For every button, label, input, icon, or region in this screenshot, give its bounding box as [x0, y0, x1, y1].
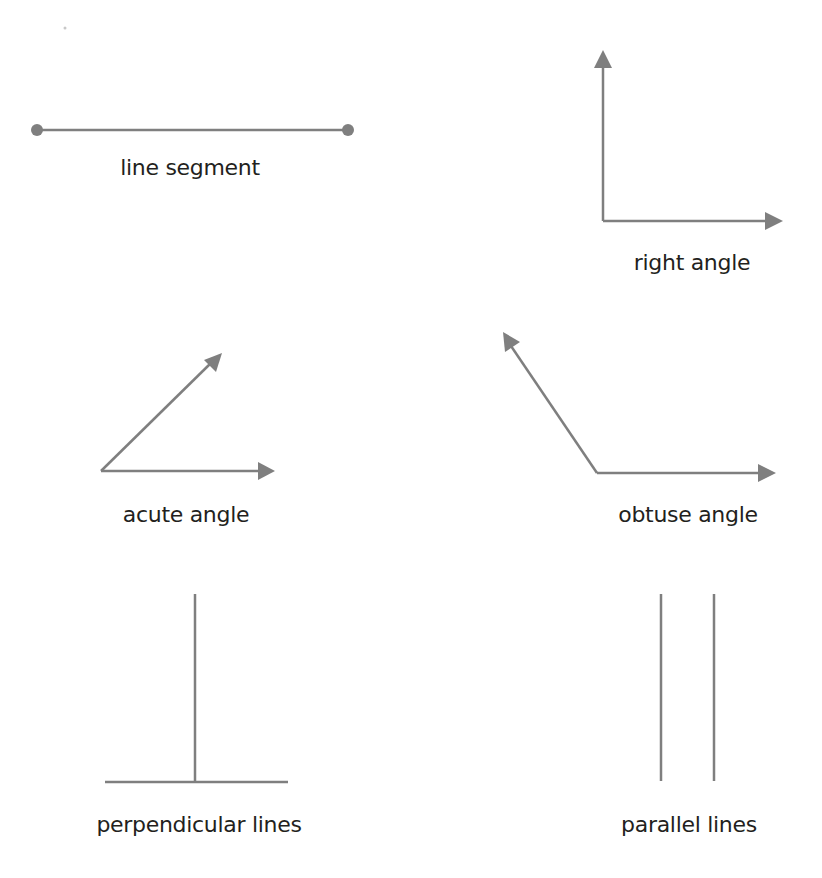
- arrowhead-diagonal-icon: [204, 353, 222, 372]
- obtuse-angle-figure: [503, 332, 776, 482]
- line-segment-figure: [31, 124, 354, 136]
- parallel-lines-figure: [661, 594, 714, 781]
- parallel-lines-label: parallel lines: [621, 812, 757, 837]
- obtuse-angle-diagonal-ray: [511, 346, 597, 473]
- arrowhead-right-icon: [765, 212, 783, 230]
- perpendicular-lines-figure: [105, 594, 288, 782]
- obtuse-angle-label: obtuse angle: [618, 502, 757, 527]
- endpoint-dot-icon: [31, 124, 43, 136]
- acute-angle-label: acute angle: [123, 502, 249, 527]
- arrowhead-right-icon: [758, 464, 776, 482]
- diagram-canvas: [0, 0, 822, 878]
- endpoint-dot-icon: [342, 124, 354, 136]
- arrowhead-right-icon: [258, 462, 275, 480]
- right-angle-label: right angle: [634, 250, 750, 275]
- scan-speck: [64, 27, 67, 30]
- right-angle-figure: [594, 50, 783, 230]
- line-segment-label: line segment: [120, 155, 260, 180]
- arrowhead-up-icon: [594, 50, 612, 68]
- perpendicular-lines-label: perpendicular lines: [96, 812, 301, 837]
- acute-angle-diagonal-ray: [101, 362, 212, 471]
- acute-angle-figure: [101, 353, 275, 480]
- arrowhead-diagonal-icon: [503, 332, 520, 352]
